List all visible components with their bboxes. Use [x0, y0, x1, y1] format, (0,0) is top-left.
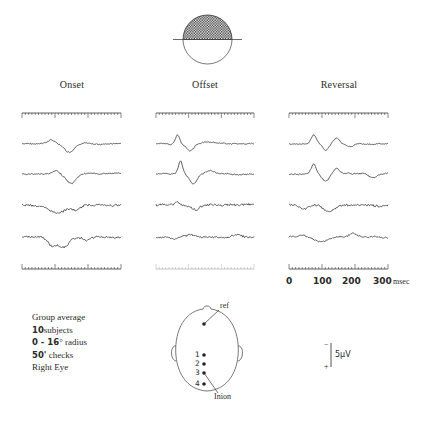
amplitude-scale-bar	[0, 0, 427, 422]
scale-amplitude-label: 5μV	[335, 350, 351, 359]
scale-minus-sign: −	[324, 340, 329, 349]
scale-plus-sign: +	[324, 362, 329, 371]
